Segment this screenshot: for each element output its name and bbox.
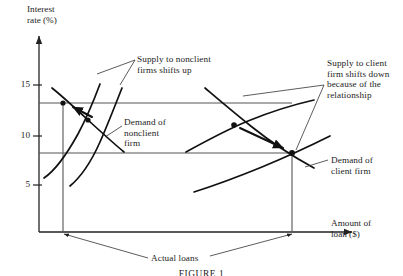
equilibrium-point-client-after — [289, 150, 295, 156]
annotation-demand-client: Demand of client firm — [331, 155, 373, 176]
leader-demand-client — [305, 160, 328, 167]
y-tick-label-10: 10 — [10, 130, 30, 140]
figure-caption: FIGURE 1 — [0, 269, 403, 276]
supply-curve-nonclient-original — [44, 84, 100, 178]
leader-demand-nonclient — [105, 126, 122, 137]
annotation-demand-nonclient: Demand of nonclient firm — [124, 117, 166, 149]
y-axis-title: Interest rate (%) — [27, 4, 57, 26]
leader-supply-nonclient-a — [97, 60, 135, 74]
supply-curve-client-shifted — [194, 136, 330, 192]
y-tick-label-5: 5 — [10, 179, 30, 189]
figure-container: Interest rate (%) Amount of loan ($) 15 … — [0, 0, 403, 276]
annotation-supply-client-shift: Supply to client firm shifts down becaus… — [327, 58, 389, 100]
leader-supply-nonclient-b — [120, 60, 135, 85]
equilibrium-point-client-before — [231, 122, 237, 128]
y-tick-label-15: 15 — [10, 79, 30, 89]
equilibrium-point-nonclient-before — [85, 117, 90, 122]
x-axis-title: Amount of loan ($) — [331, 218, 371, 240]
leader-actual-loans-left — [64, 234, 148, 258]
annotation-leaders — [64, 60, 328, 258]
demand-curve-client — [205, 88, 314, 168]
shift-arrow-client — [240, 128, 283, 148]
equilibrium-point-nonclient-after — [60, 100, 65, 105]
nonclient-curves — [44, 84, 124, 186]
annotation-actual-loans: Actual loans — [151, 253, 198, 264]
annotation-supply-nonclient-shift: Supply to nonclient firms shifts up — [137, 54, 211, 75]
client-curves — [186, 88, 330, 192]
leader-actual-loans-right — [210, 234, 292, 256]
leader-supply-client-a — [243, 85, 324, 96]
